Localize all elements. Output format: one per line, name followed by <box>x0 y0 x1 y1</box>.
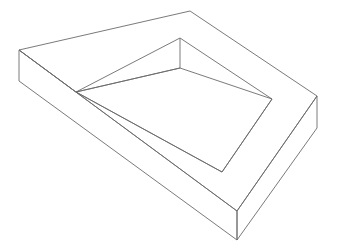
drawing-canvas <box>0 0 337 252</box>
wireframe-illustration <box>0 0 337 252</box>
